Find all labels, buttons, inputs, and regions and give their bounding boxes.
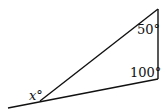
angle-label-x: x° xyxy=(29,88,43,103)
angle-label-50: 50° xyxy=(137,22,160,37)
angle-label-100: 100° xyxy=(130,65,161,80)
triangle-diagram: 50° 100° x° xyxy=(0,0,167,112)
